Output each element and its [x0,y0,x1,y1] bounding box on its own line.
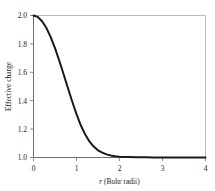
plot-axes [34,16,206,158]
y-axis-ticks [30,16,34,158]
x-axis-title-rest: (Bohr radii) [102,177,140,186]
effective-charge-curve [34,16,206,158]
x-axis-title: r (Bohr radii) [99,177,140,186]
y-tick-label-1-0: 1.0 [18,153,28,162]
x-tick-labels: 0 1 2 3 4 [32,164,208,173]
y-tick-label-1-2: 1.2 [18,125,28,134]
y-tick-label-1-8: 1.8 [18,40,28,49]
chart-figure: 2.0 1.8 1.6 1.4 1.2 1.0 0 1 2 3 4 r (Boh… [0,0,215,191]
y-tick-label-2-0: 2.0 [18,11,28,20]
x-tick-label-1: 1 [75,164,79,173]
effective-charge-plot: 2.0 1.8 1.6 1.4 1.2 1.0 0 1 2 3 4 r (Boh… [0,0,215,191]
y-axis-title: Effective charge [4,61,13,111]
y-tick-label-1-6: 1.6 [18,68,28,77]
x-tick-label-0: 0 [32,164,36,173]
y-tick-labels: 2.0 1.8 1.6 1.4 1.2 1.0 [18,11,28,162]
x-tick-label-2: 2 [118,164,122,173]
plot-frame [33,16,206,158]
x-tick-label-4: 4 [204,164,208,173]
y-tick-label-1-4: 1.4 [18,97,28,106]
x-tick-label-3: 3 [161,164,165,173]
